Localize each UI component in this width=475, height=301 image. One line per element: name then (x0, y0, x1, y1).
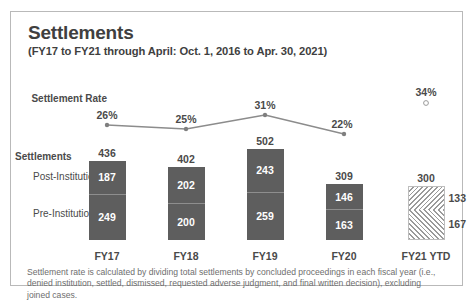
rate-label-fy18: 25% (175, 113, 196, 125)
settlement-rate-line (11, 68, 464, 253)
rate-label-fy17: 26% (96, 109, 117, 121)
rate-point-marker[interactable] (184, 127, 188, 131)
slide-card: Settlements (FY17 to FY21 through April:… (10, 11, 463, 286)
rate-point-marker[interactable] (263, 113, 267, 117)
chart-header: Settlements (FY17 to FY21 through April:… (28, 22, 448, 58)
rate-label-fy19: 31% (254, 99, 275, 111)
page-subtitle: (FY17 to FY21 through April: Oct. 1, 201… (28, 44, 448, 58)
axis-tick-fy18: FY18 (173, 250, 198, 262)
axis-tick-fy20: FY20 (331, 250, 356, 262)
axis-tick-fy21-ytd: FY21 YTD (402, 250, 451, 262)
x-axis: FY17FY18FY19FY20FY21 YTD (11, 250, 464, 266)
rate-label-fy20: 22% (331, 118, 352, 130)
page-title: Settlements (28, 22, 448, 43)
chart-plot-area: Settlement Rate Settlements Post-Institu… (11, 68, 464, 253)
rate-point-marker[interactable] (105, 123, 109, 127)
rate-point-marker[interactable] (342, 132, 346, 136)
axis-tick-fy19: FY19 (252, 250, 277, 262)
chart-footnote: Settlement rate is calculated by dividin… (27, 267, 437, 301)
rate-point-marker[interactable] (424, 101, 429, 106)
rate-label-fy21-ytd: 34% (415, 86, 436, 98)
axis-tick-fy17: FY17 (94, 250, 119, 262)
